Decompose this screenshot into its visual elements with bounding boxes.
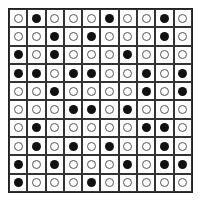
grid-cell	[155, 9, 173, 27]
grid-cell	[100, 64, 118, 82]
grid-cell	[119, 46, 137, 64]
filled-circle-icon	[178, 160, 187, 169]
empty-circle-icon	[178, 50, 187, 59]
grid-cell	[82, 119, 100, 137]
filled-circle-icon	[32, 14, 41, 23]
empty-circle-icon	[123, 178, 132, 187]
empty-circle-icon	[123, 142, 132, 151]
grid-cell	[82, 27, 100, 45]
grid-cell	[9, 46, 27, 64]
filled-circle-icon	[14, 50, 23, 59]
filled-circle-icon	[14, 178, 23, 187]
filled-circle-icon	[32, 142, 41, 151]
grid-cell	[9, 155, 27, 173]
filled-circle-icon	[160, 123, 169, 132]
grid-cell	[64, 82, 82, 100]
grid-cell	[137, 82, 155, 100]
grid-cell	[64, 155, 82, 173]
grid-cell	[119, 174, 137, 192]
grid-cell	[27, 27, 45, 45]
grid-cell	[46, 137, 64, 155]
filled-circle-icon	[14, 160, 23, 169]
grid-cell	[119, 155, 137, 173]
grid-cell	[100, 82, 118, 100]
empty-circle-icon	[69, 123, 78, 132]
grid-cell	[155, 100, 173, 118]
filled-circle-icon	[87, 32, 96, 41]
empty-circle-icon	[69, 50, 78, 59]
filled-circle-icon	[14, 69, 23, 78]
grid-cell	[100, 46, 118, 64]
empty-circle-icon	[123, 123, 132, 132]
empty-circle-icon	[105, 50, 114, 59]
empty-circle-icon	[32, 32, 41, 41]
filled-circle-icon	[142, 87, 151, 96]
empty-circle-icon	[69, 160, 78, 169]
grid-cell	[119, 119, 137, 137]
grid-cell	[27, 174, 45, 192]
empty-circle-icon	[32, 105, 41, 114]
empty-circle-icon	[14, 105, 23, 114]
grid-cell	[155, 46, 173, 64]
filled-circle-icon	[160, 160, 169, 169]
grid-cell	[174, 27, 192, 45]
grid-cell	[137, 155, 155, 173]
grid-cell	[137, 64, 155, 82]
empty-circle-icon	[142, 178, 151, 187]
grid-cell	[46, 27, 64, 45]
grid-cell	[82, 64, 100, 82]
grid-cell	[100, 27, 118, 45]
empty-circle-icon	[14, 123, 23, 132]
grid-cell	[46, 46, 64, 64]
grid-cell	[155, 155, 173, 173]
filled-circle-icon	[50, 87, 59, 96]
grid-cell	[137, 9, 155, 27]
grid-cell	[64, 64, 82, 82]
grid-cell	[100, 100, 118, 118]
filled-circle-icon	[69, 142, 78, 151]
grid-cell	[9, 137, 27, 155]
empty-circle-icon	[32, 178, 41, 187]
grid-cell	[64, 27, 82, 45]
empty-circle-icon	[87, 123, 96, 132]
grid-cell	[64, 46, 82, 64]
grid-cell	[155, 27, 173, 45]
grid-cell	[46, 64, 64, 82]
filled-circle-icon	[50, 160, 59, 169]
empty-circle-icon	[178, 142, 187, 151]
grid-cell	[27, 64, 45, 82]
grid-cell	[137, 174, 155, 192]
empty-circle-icon	[14, 14, 23, 23]
filled-circle-icon	[178, 69, 187, 78]
grid-cell	[174, 137, 192, 155]
filled-circle-icon	[160, 32, 169, 41]
empty-circle-icon	[50, 14, 59, 23]
grid-cell	[46, 174, 64, 192]
empty-circle-icon	[123, 14, 132, 23]
filled-circle-icon	[32, 69, 41, 78]
grid-cell	[82, 82, 100, 100]
empty-circle-icon	[105, 123, 114, 132]
grid-cell	[64, 119, 82, 137]
empty-circle-icon	[160, 87, 169, 96]
grid-cell	[137, 119, 155, 137]
grid-cell	[9, 64, 27, 82]
grid-cell	[119, 100, 137, 118]
empty-circle-icon	[105, 178, 114, 187]
grid-cell	[82, 174, 100, 192]
grid-cell	[174, 82, 192, 100]
grid-cell	[64, 9, 82, 27]
grid-cell	[27, 82, 45, 100]
empty-circle-icon	[32, 87, 41, 96]
empty-circle-icon	[50, 142, 59, 151]
empty-circle-icon	[178, 105, 187, 114]
empty-circle-icon	[32, 160, 41, 169]
empty-circle-icon	[105, 105, 114, 114]
empty-circle-icon	[123, 69, 132, 78]
filled-circle-icon	[87, 178, 96, 187]
grid-cell	[137, 46, 155, 64]
grid-cell	[100, 137, 118, 155]
grid-cell	[46, 155, 64, 173]
empty-circle-icon	[69, 178, 78, 187]
empty-circle-icon	[105, 32, 114, 41]
